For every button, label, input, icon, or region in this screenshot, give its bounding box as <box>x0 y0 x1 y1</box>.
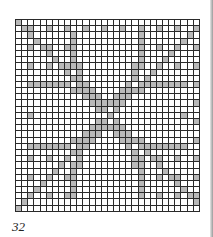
knitting-chart-grid <box>15 19 200 212</box>
chart-cell <box>194 206 200 212</box>
page-edge <box>210 0 213 237</box>
page-number: 32 <box>12 219 25 235</box>
